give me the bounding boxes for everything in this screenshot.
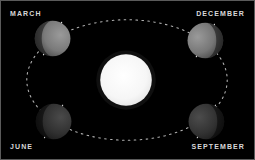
- planet-march: [35, 21, 71, 57]
- planet-june: [36, 104, 72, 140]
- label-june: JUNE: [10, 143, 33, 150]
- label-march: MARCH: [10, 10, 42, 17]
- sun-body: [96, 50, 156, 109]
- label-september: SEPTEMBER: [192, 143, 245, 150]
- seasons-diagram: MARCH DECEMBER JUNE SEPTEMBER: [0, 0, 255, 160]
- planet-december: [188, 23, 224, 59]
- label-december: DECEMBER: [196, 10, 245, 17]
- planet-september: [189, 104, 225, 140]
- orbit-scene: [1, 1, 254, 159]
